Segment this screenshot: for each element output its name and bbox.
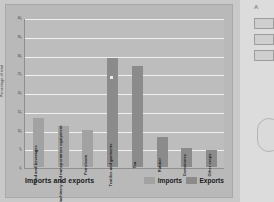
legend-label-imports: Imports <box>158 177 182 184</box>
bar[interactable] <box>132 66 143 167</box>
y-axis-tick-mark <box>20 75 22 76</box>
y-axis-tick-mark <box>20 150 22 151</box>
x-axis-title: Imports and exports <box>25 177 94 184</box>
category-label: Other crops <box>208 153 212 176</box>
y-axis-tick-mark <box>20 112 22 113</box>
side-panel-box[interactable] <box>254 18 274 29</box>
y-axis-tick-mark <box>20 19 22 20</box>
bar-slot: Textiles and garments <box>100 19 125 167</box>
legend-label-exports: Exports <box>199 177 224 184</box>
category-label: Tea <box>133 162 137 169</box>
y-axis-tick-mark <box>20 37 22 38</box>
y-axis-tick-mark <box>20 94 22 95</box>
bar-slot: Machinery and transportation equipment <box>51 19 76 167</box>
plot-background: Food and beveragesMachinery and transpor… <box>24 19 224 169</box>
side-panel-shape <box>257 118 274 152</box>
chart-legend: Imports Exports <box>144 177 224 184</box>
bar-slot: Rubber <box>150 19 175 167</box>
y-axis-title: Percentage of total <box>0 65 4 97</box>
bar-series-group: Food and beveragesMachinery and transpor… <box>26 19 224 167</box>
bar-slot: Petroleum <box>76 19 101 167</box>
bar-chart-figure: 0510152025303540 Percentage of total Foo… <box>5 4 233 198</box>
side-panel-mark: A <box>254 4 258 10</box>
screenshot-root: 0510152025303540 Percentage of total Foo… <box>0 0 274 202</box>
category-label: Gemstones <box>183 154 187 176</box>
bar-slot: Gemstones <box>175 19 200 167</box>
side-panel-box[interactable] <box>254 34 274 45</box>
category-label: Petroleum <box>84 155 88 175</box>
side-panel: A <box>240 0 274 202</box>
legend-swatch-exports <box>186 177 197 184</box>
y-axis: 0510152025303540 <box>6 19 22 169</box>
bar-slot: Other crops <box>199 19 224 167</box>
category-label: Machinery and transportation equipment <box>59 125 63 202</box>
side-panel-box[interactable] <box>254 50 274 61</box>
legend-item-exports: Exports <box>186 177 224 184</box>
y-axis-tick-mark <box>20 56 22 57</box>
bar-marker <box>110 76 113 79</box>
category-label: Textiles and garments <box>109 144 113 187</box>
plot-area: Food and beveragesMachinery and transpor… <box>24 19 224 169</box>
bar-slot: Food and beverages <box>26 19 51 167</box>
legend-item-imports: Imports <box>144 177 182 184</box>
y-axis-tick-mark <box>20 131 22 132</box>
y-axis-tick-mark <box>20 169 22 170</box>
category-label: Rubber <box>158 158 162 172</box>
bar-slot: Tea <box>125 19 150 167</box>
legend-swatch-imports <box>144 177 155 184</box>
